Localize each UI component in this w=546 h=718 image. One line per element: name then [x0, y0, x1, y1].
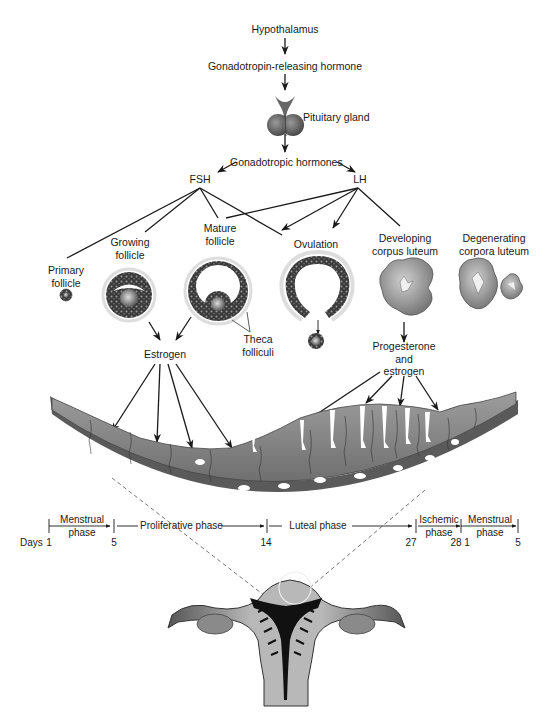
- label-pituitary-gland: Pituitary gland: [303, 111, 370, 124]
- label-line: estrogen: [368, 365, 440, 378]
- label-line: Primary: [40, 264, 92, 277]
- label-line: Ischemic: [416, 514, 462, 527]
- primary-follicle-illustration: [60, 289, 72, 301]
- tick-day-1: 1: [43, 537, 55, 550]
- label-degenerating-corpora-luteum: Degenerating corpora luteum: [452, 232, 536, 257]
- tick-day-1-next: 1: [462, 537, 472, 550]
- label-line: Developing: [367, 232, 443, 245]
- mature-follicle-illustration: [185, 258, 251, 324]
- label-progesterone-and-estrogen: Progesterone and estrogen: [368, 340, 440, 378]
- endometrium-cross-section: [50, 392, 518, 492]
- label-line: Mature: [194, 222, 246, 235]
- developing-corpus-luteum-illustration: [380, 258, 433, 316]
- label-line: corpus luteum: [367, 245, 443, 258]
- pituitary-gland-illustration: [267, 96, 304, 136]
- label-line: Menstrual: [462, 514, 518, 527]
- label-days: Days: [20, 537, 43, 550]
- label-developing-corpus-luteum: Developing corpus luteum: [367, 232, 443, 257]
- growing-follicle-illustration: [103, 269, 155, 321]
- diagram-canvas: [0, 0, 546, 718]
- label-line: Growing: [104, 236, 156, 249]
- tick-day-5: 5: [108, 537, 120, 550]
- tick-day-27: 27: [403, 537, 419, 550]
- label-line: Theca: [236, 333, 280, 346]
- tick-day-5-next: 5: [512, 537, 524, 550]
- uterus-illustration: [168, 572, 405, 706]
- label-line: follicle: [104, 249, 156, 262]
- phase-ischemic: Ischemic phase: [416, 514, 462, 539]
- label-line: Progesterone: [368, 340, 440, 353]
- label-line: Degenerating: [452, 232, 536, 245]
- ovulation-illustration: [281, 252, 352, 349]
- label-line: follicle: [40, 277, 92, 290]
- label-line: folliculi: [236, 346, 280, 359]
- label-line: and: [368, 353, 440, 366]
- phase-menstrual-end: Menstrual phase: [462, 514, 518, 539]
- phase-luteal: Luteal phase: [284, 520, 352, 533]
- label-line: Menstrual: [54, 514, 110, 527]
- tick-day-14: 14: [258, 537, 274, 550]
- label-hypothalamus: Hypothalamus: [240, 23, 330, 36]
- phase-menstrual-start: Menstrual phase: [54, 514, 110, 539]
- label-fsh: FSH: [186, 173, 214, 186]
- estrogen-source-arrows: [149, 317, 191, 340]
- phase-proliferative: Proliferative phase: [140, 520, 222, 533]
- label-theca-folliculi: Theca folliculi: [236, 333, 280, 358]
- label-line: corpora luteum: [452, 245, 536, 258]
- label-growing-follicle: Growing follicle: [104, 236, 156, 261]
- label-ovulation: Ovulation: [286, 238, 346, 251]
- label-line: phase: [54, 527, 110, 540]
- degenerating-corpora-lutea-illustration: [459, 258, 523, 309]
- label-primary-follicle: Primary follicle: [40, 264, 92, 289]
- label-lh: LH: [350, 173, 370, 186]
- label-line: follicle: [194, 235, 246, 248]
- label-mature-follicle: Mature follicle: [194, 222, 246, 247]
- label-estrogen: Estrogen: [140, 348, 190, 361]
- label-gonadotropic-hormones: Gonadotropic hormones: [230, 156, 340, 169]
- label-gnrh: Gonadotropin-releasing hormone: [205, 60, 365, 73]
